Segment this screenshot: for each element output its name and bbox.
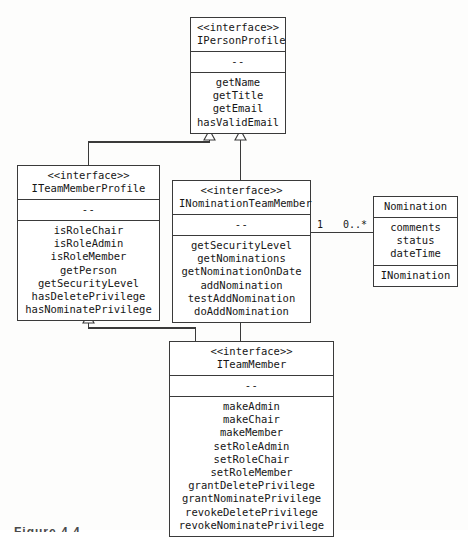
operation-item: revokeNominatePrivilege (176, 519, 327, 532)
operation-item: makeAdmin (176, 400, 327, 413)
class-name-label: IPersonProfile (197, 34, 279, 47)
multiplicity-source-label: 1 (317, 219, 323, 231)
operation-item: doAddNomination (179, 305, 304, 318)
interface-name-label: INomination (380, 269, 451, 282)
operation-item: setRoleChair (176, 453, 327, 466)
operation-item: setRoleMember (176, 466, 327, 479)
operation-item: hasValidEmail (197, 116, 279, 129)
operation-item: testAddNomination (179, 292, 304, 305)
class-name-label: ITeamMember (176, 358, 327, 371)
operation-item: isRoleMember (24, 250, 153, 263)
operation-item: getNominations (179, 252, 304, 265)
operation-item: makeChair (176, 413, 327, 426)
stereotype-label: <<interface>> (197, 21, 279, 34)
operation-item: getNominationOnDate (179, 265, 304, 278)
class-attributes-ipersonprofile: -- (191, 51, 285, 72)
operation-item: grantDeletePrivilege (176, 479, 327, 492)
class-box-iteammember[interactable]: <<interface>> ITeamMember -- makeAdmin m… (169, 341, 334, 537)
generalization-line-teammember-to-teammemberprofile (89, 323, 196, 341)
operation-item: hasDeletePrivilege (24, 290, 153, 303)
class-interface-compartment-nomination: INomination (374, 265, 457, 286)
class-operations-iteammemberprofile: isRoleChair isRoleAdmin isRoleMember get… (18, 220, 159, 320)
class-name-label: ITeamMemberProfile (24, 182, 153, 195)
class-attributes-inominationteammember: -- (173, 214, 310, 235)
attribute-item: dateTime (380, 247, 451, 260)
class-operations-iteammember: makeAdmin makeChair makeMember setRoleAd… (170, 396, 333, 536)
empty-compartment-marker: -- (24, 203, 153, 216)
multiplicity-target-label: 0..* (343, 219, 367, 231)
class-header-nomination: Nomination (374, 197, 457, 217)
class-header-iteammember: <<interface>> ITeamMember (170, 342, 333, 375)
class-box-ipersonprofile[interactable]: <<interface>> IPersonProfile -- getName … (190, 17, 286, 134)
class-box-iteammemberprofile[interactable]: <<interface>> ITeamMemberProfile -- isRo… (17, 165, 160, 321)
class-header-ipersonprofile: <<interface>> IPersonProfile (191, 18, 285, 51)
class-box-inominationteammember[interactable]: <<interface>> INominationTeamMember -- g… (172, 180, 311, 323)
empty-compartment-marker: -- (197, 55, 279, 68)
operation-item: hasNominatePrivilege (24, 303, 153, 316)
generalization-line-teammemberprofile-to-personprofile (89, 140, 210, 165)
class-box-nomination[interactable]: Nomination comments status dateTime INom… (373, 196, 458, 287)
class-name-label: INominationTeamMember (179, 197, 304, 210)
class-attributes-nomination: comments status dateTime (374, 217, 457, 265)
operation-item: getName (197, 76, 279, 89)
operation-item: addNomination (179, 279, 304, 292)
operation-item: setRoleAdmin (176, 440, 327, 453)
stereotype-label: <<interface>> (24, 169, 153, 182)
stereotype-label: <<interface>> (179, 184, 304, 197)
stereotype-label: <<interface>> (176, 345, 327, 358)
operation-item: getEmail (197, 102, 279, 115)
operation-item: getTitle (197, 89, 279, 102)
class-attributes-iteammemberprofile: -- (18, 199, 159, 220)
figure-caption: Figure 4.4 (14, 525, 81, 532)
operation-item: isRoleAdmin (24, 237, 153, 250)
operation-item: getPerson (24, 264, 153, 277)
class-operations-ipersonprofile: getName getTitle getEmail hasValidEmail (191, 72, 285, 133)
empty-compartment-marker: -- (176, 379, 327, 392)
class-operations-inominationteammember: getSecurityLevel getNominations getNomin… (173, 235, 310, 322)
class-name-label: Nomination (380, 200, 451, 213)
operation-item: isRoleChair (24, 224, 153, 237)
operation-item: getSecurityLevel (24, 277, 153, 290)
class-header-inominationteammember: <<interface>> INominationTeamMember (173, 181, 310, 214)
attribute-item: comments (380, 221, 451, 234)
operation-item: makeMember (176, 426, 327, 439)
operation-item: revokeDeletePrivilege (176, 506, 327, 519)
class-attributes-iteammember: -- (170, 375, 333, 396)
operation-item: grantNominatePrivilege (176, 492, 327, 505)
class-header-iteammemberprofile: <<interface>> ITeamMemberProfile (18, 166, 159, 199)
operation-item: getSecurityLevel (179, 239, 304, 252)
attribute-item: status (380, 234, 451, 247)
empty-compartment-marker: -- (179, 218, 304, 231)
